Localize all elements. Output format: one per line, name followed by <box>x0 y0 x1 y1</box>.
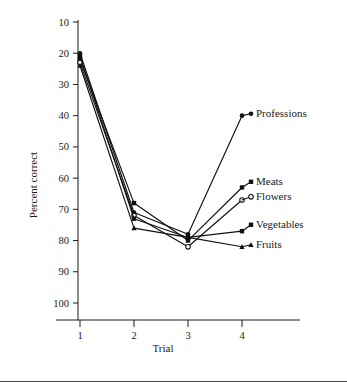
x-tick-group: 1234 <box>77 320 245 341</box>
bottom-divider <box>0 381 347 382</box>
y-tick-label: 90 <box>59 266 70 277</box>
x-axis-title: Trial <box>153 342 174 354</box>
figure-container: 100908070605040302010 1234 Percent corre… <box>0 0 347 388</box>
series-line <box>80 63 242 247</box>
axis-group <box>56 20 300 320</box>
series-leader-marker <box>248 242 253 247</box>
series-label-meats: Meats <box>256 175 283 187</box>
data-point-marker <box>186 245 191 250</box>
series-line <box>80 66 242 247</box>
series-label-fruits: Fruits <box>256 238 282 250</box>
x-tick-label: 4 <box>239 330 245 341</box>
y-axis-title: Percent correct <box>27 152 39 218</box>
data-point-marker <box>132 201 136 205</box>
series-label-flowers: Flowers <box>256 190 291 202</box>
x-tick-label: 3 <box>185 330 190 341</box>
y-tick-label: 70 <box>59 204 70 215</box>
x-tick-label: 1 <box>77 330 82 341</box>
data-point-marker <box>78 54 82 58</box>
y-tick-label: 100 <box>53 298 69 309</box>
series-label-vegetables: Vegetables <box>256 218 304 230</box>
series-vegetables <box>78 54 253 239</box>
data-point-marker <box>132 217 136 221</box>
series-label-layer: ProfessionsMeatsFlowersVegetablesFruits <box>256 107 307 250</box>
y-tick-group: 100908070605040302010 <box>53 17 78 309</box>
data-series-layer <box>77 51 253 249</box>
series-leader-marker <box>249 195 254 200</box>
x-tick-label: 2 <box>131 330 136 341</box>
series-line <box>80 59 242 240</box>
data-point-marker <box>131 225 136 230</box>
series-line <box>80 53 242 234</box>
series-leader-marker <box>249 180 253 184</box>
series-professions <box>78 51 254 237</box>
series-line <box>80 56 242 237</box>
line-chart: 100908070605040302010 1234 Percent corre… <box>0 0 347 388</box>
series-leader-marker <box>249 223 253 227</box>
y-tick-label: 10 <box>59 17 70 28</box>
series-fruits <box>77 63 253 249</box>
y-tick-label: 40 <box>59 110 70 121</box>
series-flowers <box>78 60 254 249</box>
series-leader-marker <box>249 112 254 117</box>
y-tick-label: 60 <box>59 173 70 184</box>
series-label-professions: Professions <box>256 107 307 119</box>
y-tick-label: 80 <box>59 235 70 246</box>
y-tick-label: 20 <box>59 48 70 59</box>
y-tick-label: 30 <box>59 79 70 90</box>
y-tick-label: 50 <box>59 141 70 152</box>
